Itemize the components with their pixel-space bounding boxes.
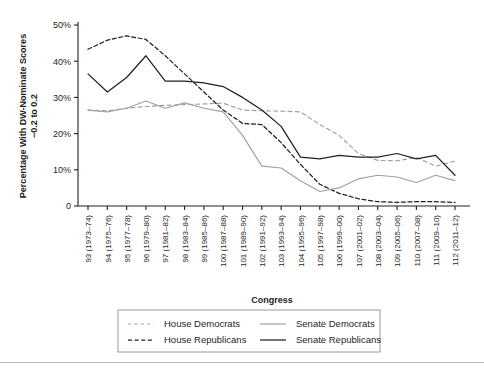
svg-text:Percentage With DW-Nominate Sc: Percentage With DW-Nominate Scores xyxy=(18,34,28,198)
y-tick-label: 50% xyxy=(53,20,71,30)
y-axis-title: Percentage With DW-Nominate Scores−0.2 t… xyxy=(18,34,39,198)
x-tick-label: 109 (2005–06) xyxy=(393,215,402,267)
x-tick-label: 99 (1985–86) xyxy=(200,215,209,263)
line-chart: 010%20%30%40%50%93 (1973–74)94 (1975–76)… xyxy=(0,0,484,371)
x-tick-label: 112 (2011–12) xyxy=(451,215,460,266)
legend-label: Senate Democrats xyxy=(296,318,375,329)
x-tick-label: 107 (2001–02) xyxy=(355,215,364,267)
y-tick-label: 20% xyxy=(53,129,71,139)
x-tick-label: 100 (1987–88) xyxy=(219,215,228,267)
legend-box xyxy=(118,310,380,352)
series-line-senate-republicans xyxy=(88,56,455,175)
series-line-house-democrats xyxy=(88,103,455,166)
x-tick-label: 105 (1997–98) xyxy=(316,215,325,267)
legend-label: House Republicans xyxy=(164,334,247,345)
x-axis-title: Congress xyxy=(251,295,293,305)
y-tick-label: 0 xyxy=(66,201,71,211)
y-tick-label: 10% xyxy=(53,165,71,175)
x-tick-label: 97 (1981–82) xyxy=(161,215,170,263)
series-line-senate-democrats xyxy=(88,101,455,192)
x-tick-label: 96 (1979–80) xyxy=(142,215,151,263)
x-tick-label: 98 (1983–84) xyxy=(181,215,190,263)
x-tick-label: 93 (1973–74) xyxy=(84,215,93,263)
x-tick-label: 106 (1999–00) xyxy=(335,215,344,267)
chart-canvas: 010%20%30%40%50%93 (1973–74)94 (1975–76)… xyxy=(0,0,484,371)
x-tick-label: 94 (1975–76) xyxy=(104,215,113,263)
bottom-divider xyxy=(0,362,484,363)
y-tick-label: 30% xyxy=(53,93,71,103)
x-tick-label: 108 (2003–04) xyxy=(374,215,383,267)
x-tick-label: 110 (2007–08) xyxy=(413,215,422,267)
x-tick-label: 101 (1989–90) xyxy=(239,215,248,267)
x-tick-label: 95 (1977–78) xyxy=(123,215,132,263)
x-tick-label: 104 (1995–96) xyxy=(297,215,306,267)
x-tick-label: 102 (1991–92) xyxy=(258,215,267,267)
x-tick-label: 103 (1993–94) xyxy=(277,215,286,267)
x-tick-label: 111 (2009–10) xyxy=(432,215,441,266)
chart-figure: 010%20%30%40%50%93 (1973–74)94 (1975–76)… xyxy=(0,0,484,371)
legend-label: House Democrats xyxy=(164,318,240,329)
y-tick-label: 40% xyxy=(53,57,71,67)
legend-label: Senate Republicans xyxy=(296,334,381,345)
svg-text:−0.2 to 0.2: −0.2 to 0.2 xyxy=(29,94,39,138)
